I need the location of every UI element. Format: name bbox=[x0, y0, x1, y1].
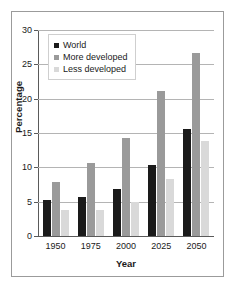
bar bbox=[192, 53, 200, 236]
chart-figure: Percentage Year 051015202530 19501975200… bbox=[0, 0, 237, 291]
x-tick-label: 2050 bbox=[186, 241, 206, 251]
bar bbox=[87, 163, 95, 236]
legend-swatch-icon bbox=[54, 43, 59, 48]
legend-item: Less developed bbox=[54, 63, 128, 75]
legend-label: More developed bbox=[63, 53, 128, 62]
bar bbox=[183, 129, 191, 236]
bar bbox=[78, 197, 86, 236]
x-tick-label: 1950 bbox=[46, 241, 66, 251]
bar bbox=[201, 141, 209, 236]
y-tick-label: 15 bbox=[22, 129, 32, 138]
y-tick-label: 20 bbox=[22, 94, 32, 103]
bar bbox=[131, 202, 139, 236]
y-axis-title: Percentage bbox=[13, 81, 24, 133]
bar bbox=[113, 189, 121, 236]
bar bbox=[148, 165, 156, 236]
y-tick-mark bbox=[34, 99, 38, 100]
y-tick-mark bbox=[34, 202, 38, 203]
y-tick-mark bbox=[34, 64, 38, 65]
legend-label: Less developed bbox=[63, 65, 126, 74]
legend-swatch-icon bbox=[54, 55, 59, 60]
bar bbox=[61, 210, 69, 236]
y-tick-mark bbox=[34, 236, 38, 237]
gridline bbox=[38, 30, 214, 31]
y-tick-label: 5 bbox=[27, 197, 32, 206]
x-tick-label: 1975 bbox=[81, 241, 101, 251]
bar bbox=[52, 182, 60, 236]
gridline bbox=[38, 99, 214, 100]
bar bbox=[43, 200, 51, 236]
bar bbox=[166, 179, 174, 236]
x-tick-label: 2025 bbox=[151, 241, 171, 251]
legend-item: More developed bbox=[54, 51, 128, 63]
legend-label: World bbox=[63, 41, 86, 50]
bar bbox=[157, 91, 165, 236]
y-tick-mark bbox=[34, 133, 38, 134]
y-tick-label: 10 bbox=[22, 163, 32, 172]
x-tick-label: 2000 bbox=[116, 241, 136, 251]
x-axis-line bbox=[38, 236, 214, 237]
y-tick-mark bbox=[34, 30, 38, 31]
y-tick-label: 25 bbox=[22, 60, 32, 69]
bar bbox=[122, 138, 130, 236]
legend-item: World bbox=[54, 39, 128, 51]
y-tick-label: 0 bbox=[27, 232, 32, 241]
chart-legend: WorldMore developedLess developed bbox=[48, 34, 136, 80]
y-tick-label: 30 bbox=[22, 26, 32, 35]
bar bbox=[96, 210, 104, 236]
x-axis-title: Year bbox=[38, 258, 214, 269]
legend-swatch-icon bbox=[54, 67, 59, 72]
y-tick-mark bbox=[34, 167, 38, 168]
